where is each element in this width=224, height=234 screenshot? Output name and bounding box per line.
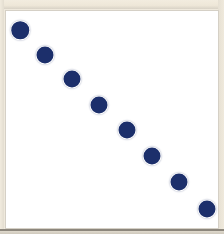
plot-surface: [6, 11, 218, 228]
scatter-point: [198, 200, 215, 217]
scatter-point: [11, 21, 29, 39]
scatter-point: [171, 173, 188, 190]
scatter-point: [90, 96, 107, 113]
figure-matte-top-edge: [0, 0, 224, 9]
scatter-point: [37, 47, 54, 64]
scatter-point: [64, 71, 81, 88]
figure-root: [0, 0, 224, 234]
scatter-point: [118, 122, 135, 139]
figure-matte-left-edge: [0, 0, 4, 234]
figure-bottom-rule: [0, 229, 224, 231]
scatter-point: [144, 148, 161, 165]
scatter-plot-panel: [5, 10, 219, 229]
